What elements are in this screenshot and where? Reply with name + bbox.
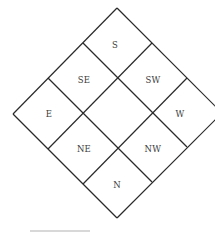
compass-grid-diagram: S SE SW E W NE NW N	[0, 0, 215, 233]
cell-label-ne: NE	[77, 144, 91, 154]
cell-label-n: N	[113, 180, 121, 190]
cell-label-w: W	[175, 109, 184, 119]
cell-label-sw: SW	[145, 75, 160, 85]
scan-artifact	[30, 230, 90, 232]
cell-label-se: SE	[78, 75, 91, 85]
cell-label-e: E	[46, 109, 53, 119]
cell-label-nw: NW	[145, 144, 162, 154]
cell-label-s: S	[112, 40, 118, 50]
